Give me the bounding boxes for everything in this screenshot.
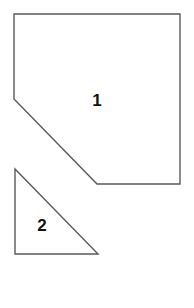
- shape-1-label: 1: [92, 91, 101, 110]
- diagram-canvas: 1 2: [0, 0, 194, 308]
- shape-2-group: 2: [15, 169, 98, 254]
- shape-1-group: 1: [14, 14, 180, 184]
- shape-2-triangle: [15, 169, 98, 254]
- shape-2-label: 2: [37, 216, 46, 235]
